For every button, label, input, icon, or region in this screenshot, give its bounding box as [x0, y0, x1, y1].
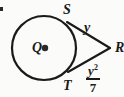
fraction-denominator: 7	[90, 80, 97, 94]
diagram-canvas	[0, 0, 124, 97]
label-center-q: Q	[32, 41, 42, 55]
fraction-numerator-exponent: 2	[94, 63, 98, 72]
label-point-t: T	[63, 79, 72, 93]
label-tangent-length-y: y	[84, 21, 90, 35]
center-point-dot	[42, 45, 48, 51]
label-point-r: R	[115, 41, 124, 55]
geometry-figure: S Q T R y y2 7	[0, 0, 124, 97]
label-point-s: S	[63, 3, 71, 17]
fraction-numerator: y2	[87, 64, 99, 78]
corner-artifact-mark	[0, 7, 3, 11]
label-tangent-length-fraction: y2 7	[86, 64, 100, 94]
